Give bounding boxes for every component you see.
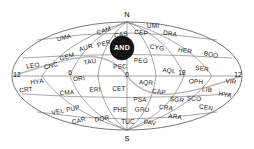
constellation-label-sco: SCO — [187, 94, 202, 102]
hour-marker-6-1: 6 — [68, 69, 72, 76]
sky-chart-svg: CAMCASCEPUMIDRAUMAAURPERCYGHERBOOGEMTAUP… — [0, 0, 254, 149]
hour-marker-0-2: 0 — [125, 71, 129, 78]
constellation-label-per: PER — [96, 38, 111, 49]
constellation-label-cra: CRA — [159, 103, 174, 112]
constellation-map: CAMCASCEPUMIDRAUMAAURPERCYGHERBOOGEMTAUP… — [0, 0, 254, 149]
constellation-label-cma: CMA — [59, 88, 75, 96]
south-pole-label: S — [125, 134, 130, 143]
constellation-label-sgr: SGR — [170, 95, 185, 103]
constellation-label-dra: DRA — [163, 29, 179, 38]
constellation-label-pup: PUP — [65, 103, 80, 113]
constellation-label-gru: GRU — [134, 105, 149, 113]
constellation-label-dor: DOR — [94, 114, 110, 123]
highlighted-constellation[interactable]: AND — [110, 36, 134, 60]
constellation-label-cep: CEP — [134, 28, 149, 37]
constellation-label-uma: UMA — [56, 32, 73, 43]
hour-marker-18-3: 18 — [178, 69, 186, 76]
constellation-label-phe: PHE — [113, 106, 127, 113]
hour-marker-12-4: 12 — [234, 71, 242, 78]
constellation-label-aqr: AQR — [139, 78, 154, 87]
constellation-label-ara: ARA — [168, 112, 183, 121]
north-pole-label: N — [124, 10, 129, 19]
constellation-label-pav: PAV — [143, 118, 157, 127]
constellation-label-cap: CAP — [152, 87, 166, 95]
constellation-label-hya: HYA — [218, 90, 233, 99]
constellation-label-peg: PEG — [134, 56, 149, 64]
constellation-label-umi: UMI — [147, 22, 159, 29]
constellation-label-tuc: TUC — [121, 118, 135, 125]
constellation-label-lib: LIB — [202, 85, 213, 93]
constellation-label-aur: AUR — [78, 42, 94, 53]
highlight-label-and: AND — [114, 44, 130, 51]
constellation-label-eri: ERI — [89, 85, 101, 93]
constellation-label-crt: CRT — [19, 85, 33, 93]
constellation-label-ori: ORI — [73, 74, 86, 82]
constellation-label-cen: CEN — [199, 103, 214, 112]
constellation-label-cet: CET — [112, 85, 125, 92]
constellation-label-cnc: CNC — [43, 60, 59, 70]
constellation-label-aql: AQL — [162, 66, 176, 75]
constellation-label-psc: PSC — [113, 62, 127, 70]
constellation-label-vir: VIR — [225, 77, 237, 85]
constellation-label-her: HER — [178, 46, 193, 55]
hour-marker-12-0: 12 — [13, 71, 21, 78]
constellation-label-tau: TAU — [83, 57, 97, 66]
constellation-label-boo: BOO — [203, 49, 219, 59]
constellation-label-cyg: CYG — [149, 42, 164, 51]
constellation-label-oph: OPH — [189, 77, 204, 85]
constellation-label-ser: SER — [195, 64, 210, 73]
constellation-label-psa: PSA — [133, 95, 147, 103]
constellation-label-vel: VEL — [51, 106, 65, 116]
